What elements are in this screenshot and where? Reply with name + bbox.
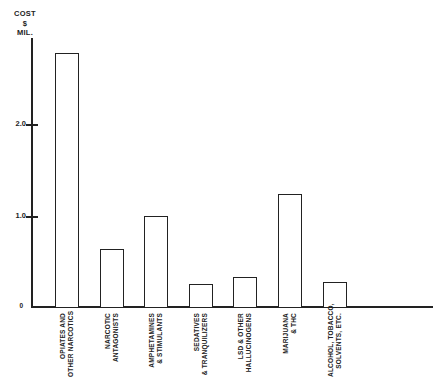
category-label-6: MARIJUANA& THC	[282, 313, 298, 377]
bar-6	[278, 194, 302, 307]
category-label-7: ALCOHOL, TOBACCO,SOLVENTS, ETC.	[327, 313, 343, 377]
category-label-line: OTHER NARCOTICS	[67, 313, 75, 377]
category-label-line: ANTAGONISTS	[111, 313, 119, 377]
category-label-line: AMPHETAMINES	[148, 313, 156, 377]
y-axis-title-line3: MIL.	[8, 28, 42, 38]
category-label-line: HALLUCINOGENS	[245, 313, 253, 377]
y-tick-label-2: 2.0	[6, 120, 26, 128]
category-label-3: AMPHETAMINES& STIMULANTS	[148, 313, 164, 377]
category-label-1: OPIATES ANDOTHER NARCOTICS	[59, 313, 75, 377]
category-label-line: ALCOHOL, TOBACCO,	[327, 313, 335, 377]
category-label-line: SEDATIVES	[193, 313, 201, 377]
bar-4	[189, 284, 213, 307]
y-axis-line	[31, 38, 33, 308]
bar-3	[144, 216, 168, 307]
bar-chart: COST $ MIL. 2.0 1.0 0 OPIATES ANDOTHER N…	[0, 0, 448, 390]
x-axis-line	[31, 306, 433, 308]
category-label-line: OPIATES AND	[59, 313, 67, 377]
category-label-line: SOLVENTS, ETC.	[334, 313, 342, 377]
y-axis-title-line1: COST	[8, 9, 42, 19]
category-label-line: & TRANQUILIZERS	[200, 313, 208, 377]
y-axis-title: COST $ MIL.	[8, 9, 42, 38]
y-tick-label-1: 1.0	[6, 212, 26, 220]
category-label-2: NARCOTICANTAGONISTS	[104, 313, 120, 377]
y-tick-mark-1	[26, 216, 38, 218]
category-label-line: MARIJUANA	[282, 313, 290, 377]
y-tick-label-0: 0	[14, 302, 23, 310]
bar-1	[55, 53, 79, 307]
category-label-line: NARCOTIC	[104, 313, 112, 377]
bar-2	[100, 249, 124, 307]
category-label-line: & THC	[290, 313, 298, 377]
category-label-4: SEDATIVES& TRANQUILIZERS	[193, 313, 209, 377]
y-axis-title-line2: $	[8, 19, 42, 29]
bar-5	[233, 277, 257, 307]
category-label-line: & STIMULANTS	[156, 313, 164, 377]
y-tick-mark-2	[26, 124, 38, 126]
category-label-5: LSD & OTHERHALLUCINOGENS	[237, 313, 253, 377]
